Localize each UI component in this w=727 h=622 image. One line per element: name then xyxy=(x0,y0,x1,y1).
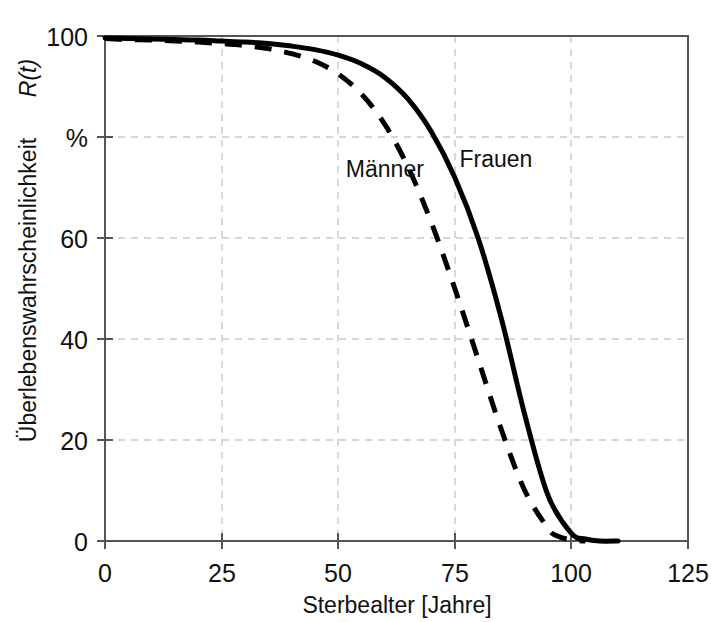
y-axis-tick-labels: 100 % 60 40 20 0 xyxy=(46,23,88,556)
xtick-label-50: 50 xyxy=(324,559,352,587)
svg-text:Überlebenswahrscheinlichkeit: Überlebenswahrscheinlichkeit xyxy=(15,137,41,442)
ytick-label-0: 0 xyxy=(74,528,88,556)
y-axis-title-variable: R(t) xyxy=(15,59,41,97)
xtick-label-100: 100 xyxy=(550,559,592,587)
chart-canvas: 100 % 60 40 20 0 0 25 50 75 100 125 Ster… xyxy=(0,0,727,622)
ytick-label-20: 20 xyxy=(60,427,88,455)
survival-probability-chart: 100 % 60 40 20 0 0 25 50 75 100 125 Ster… xyxy=(0,0,727,622)
xtick-label-25: 25 xyxy=(208,559,236,587)
plot-area-background xyxy=(105,36,688,541)
xtick-label-125: 125 xyxy=(667,559,709,587)
ytick-label-percent: % xyxy=(66,124,88,152)
ytick-label-40: 40 xyxy=(60,326,88,354)
x-axis-tick-labels: 0 25 50 75 100 125 xyxy=(98,559,709,587)
xtick-label-75: 75 xyxy=(441,559,469,587)
y-axis-title: Überlebenswahrscheinlichkeit xyxy=(15,137,41,442)
x-axis-title: Sterbealter [Jahre] xyxy=(302,592,491,618)
y-axis-title-italic: R(t) xyxy=(15,59,41,97)
series-label-maenner: Männer xyxy=(346,156,424,182)
xtick-label-0: 0 xyxy=(98,559,112,587)
ytick-label-60: 60 xyxy=(60,225,88,253)
ytick-label-100: 100 xyxy=(46,23,88,51)
series-label-frauen: Frauen xyxy=(459,146,532,172)
y-axis-title-plain: Überlebenswahrscheinlichkeit xyxy=(15,137,41,442)
